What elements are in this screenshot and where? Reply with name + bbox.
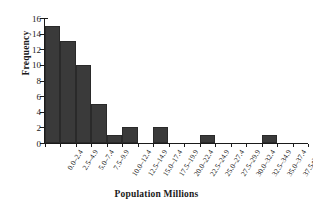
x-axis-title: Population Millions (0, 189, 313, 199)
x-tick-mark (60, 144, 61, 147)
x-tick-mark (91, 144, 92, 147)
plot-area: 0246810121416 (44, 18, 308, 144)
x-tick-mark (45, 144, 46, 147)
bar (122, 127, 137, 143)
y-tick-label: 8 (37, 76, 42, 86)
y-tick-label: 10 (32, 60, 41, 70)
x-tick-mark (262, 144, 263, 147)
bar (91, 104, 106, 143)
x-tick-mark (277, 144, 278, 147)
bar (45, 26, 60, 143)
x-tick-mark (184, 144, 185, 147)
x-tick-mark (215, 144, 216, 147)
bar (153, 127, 168, 143)
y-tick-label: 16 (32, 14, 41, 24)
bar (60, 41, 75, 143)
x-tick-mark (200, 144, 201, 147)
histogram-figure: Frequency 0246810121416 0.0–2.42.5–4.95.… (0, 0, 313, 205)
bar (76, 65, 91, 143)
x-tick-mark (246, 144, 247, 147)
x-tick-mark (293, 144, 294, 147)
y-tick-label: 6 (37, 92, 42, 102)
x-tick-mark (231, 144, 232, 147)
x-tick-mark (122, 144, 123, 147)
bar (262, 135, 277, 143)
x-tick-mark (138, 144, 139, 147)
x-axis-tick-labels: 0.0–2.42.5–4.95.0–7.47.5–9.910.0–12.412.… (44, 148, 308, 188)
bar-series (45, 18, 308, 143)
y-tick-label: 0 (37, 139, 42, 149)
y-tick-label: 14 (32, 29, 41, 39)
x-tick-mark (76, 144, 77, 147)
y-tick-label: 4 (37, 107, 42, 117)
x-tick-mark (169, 144, 170, 147)
x-tick-mark (153, 144, 154, 147)
x-tick-mark (308, 144, 309, 147)
x-tick-mark (107, 144, 108, 147)
y-tick-label: 2 (37, 123, 42, 133)
y-tick-label: 12 (32, 45, 41, 55)
y-axis-title: Frequency (21, 3, 31, 103)
bar (107, 135, 122, 143)
bar (200, 135, 215, 143)
